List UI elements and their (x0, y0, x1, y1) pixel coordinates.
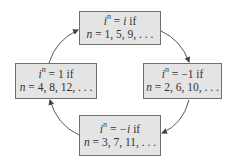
equals-sign: = (172, 68, 179, 80)
exponent-symbol: n (107, 12, 111, 21)
arrow-left-to-top (49, 30, 78, 63)
n-label: n (84, 136, 90, 148)
n-sequence: = 1, 5, 9, . . . (95, 28, 153, 40)
exponent-symbol: n (103, 120, 107, 129)
condition-word: if (133, 123, 140, 135)
exponent-symbol: n (165, 65, 169, 74)
node-n-values: n = 2, 6, 10, . . . (146, 81, 219, 94)
equals-sign: = (110, 123, 117, 135)
arrow-top-to-right (161, 31, 189, 62)
power-value: i (123, 15, 126, 27)
node-equation: in = 1 if (38, 68, 73, 81)
condition-word: if (67, 68, 74, 80)
n-label: n (20, 81, 26, 93)
node-n-values: n = 3, 7, 11, . . . (84, 136, 156, 149)
equals-sign: = (114, 15, 121, 27)
power-value: 1 (58, 68, 64, 80)
powers-of-i-cycle-diagram: in = i if n = 1, 5, 9, . . . in = −1 if … (0, 0, 236, 166)
exponent-symbol: n (42, 65, 46, 74)
condition-word: if (196, 68, 203, 80)
node-equation: in = −i if (100, 123, 140, 136)
n-sequence: = 3, 7, 11, . . . (93, 136, 157, 148)
power-value: −1 (181, 68, 193, 80)
node-i-power-equals-1: in = 1 if n = 4, 8, 12, . . . (15, 63, 97, 99)
node-n-values: n = 4, 8, 12, . . . (20, 81, 93, 94)
node-equation: in = i if (104, 15, 137, 28)
n-label: n (146, 81, 152, 93)
condition-word: if (129, 15, 136, 27)
n-label: n (87, 28, 93, 40)
node-i-power-equals-i: in = i if n = 1, 5, 9, . . . (79, 11, 161, 45)
arrow-right-to-bottom (162, 100, 189, 133)
power-value: −i (119, 123, 130, 135)
n-sequence: = 4, 8, 12, . . . (28, 81, 92, 93)
equals-sign: = (49, 68, 56, 80)
node-n-values: n = 1, 5, 9, . . . (87, 28, 154, 41)
node-i-power-equals-minus-i: in = −i if n = 3, 7, 11, . . . (79, 115, 161, 156)
node-equation: in = −1 if (162, 68, 204, 81)
n-sequence: = 2, 6, 10, . . . (155, 81, 219, 93)
arrow-bottom-to-left (50, 100, 79, 135)
node-i-power-equals-minus-1: in = −1 if n = 2, 6, 10, . . . (143, 63, 222, 99)
